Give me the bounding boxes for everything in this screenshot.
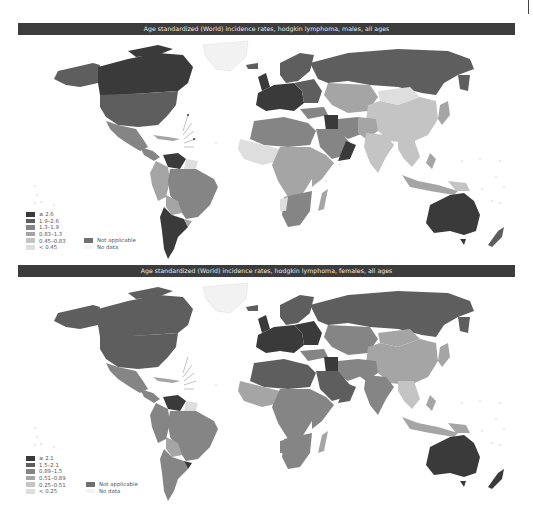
legend-swatch <box>26 245 35 250</box>
region-australia <box>426 193 480 235</box>
legend-item: ≥ 2.1 <box>26 455 66 462</box>
world-map-males <box>18 35 515 263</box>
region-indonesia <box>402 417 458 437</box>
region-central-america <box>140 389 160 403</box>
legend-item: 1.9–2.6 <box>26 218 66 225</box>
legend-item: ≥ 2.6 <box>26 211 66 218</box>
region-iraq <box>324 357 338 373</box>
region-canada <box>98 295 193 337</box>
region-central-africa <box>272 389 316 439</box>
region-japan <box>438 343 450 367</box>
region-southeast-asia <box>398 381 420 409</box>
legend-item: 1.3–1.9 <box>26 224 66 231</box>
region-central-america <box>140 147 160 161</box>
world-map-females <box>18 277 515 505</box>
legend-item: 0.25–0.51 <box>26 481 66 488</box>
legend-item: 0.89–1.5 <box>26 468 66 475</box>
region-southern-africa <box>282 433 312 469</box>
legend-item-not-applicable: Not applicable <box>86 481 138 488</box>
legend-extra-females: Not applicable No data <box>86 481 138 494</box>
region-greenland <box>203 41 248 71</box>
legend-item-not-applicable: Not applicable <box>84 237 136 244</box>
page-edge-mark <box>528 0 529 14</box>
legend-item: < 0.45 <box>26 244 66 251</box>
region-alaska <box>54 305 100 329</box>
legend-swatch <box>26 489 35 494</box>
legend-item-no-data: No data <box>84 244 136 251</box>
legend-swatch <box>86 482 95 487</box>
legend-swatch <box>26 238 35 243</box>
region-canada <box>98 53 193 95</box>
legend-item: 0.45–0.83 <box>26 237 66 244</box>
legend-males: ≥ 2.6 1.9–2.6 1.3–1.9 0.83–1.3 0.45–0.83… <box>26 211 66 251</box>
region-colombia-peru <box>150 403 170 443</box>
region-scandinavia <box>280 53 314 83</box>
region-indonesia <box>402 175 458 195</box>
region-madagascar <box>318 431 328 453</box>
legend-swatch <box>26 225 35 230</box>
region-japan <box>438 101 450 125</box>
region-greenland <box>203 283 248 313</box>
region-iraq <box>324 115 338 131</box>
legend-swatch <box>26 463 35 468</box>
region-usa <box>100 333 178 369</box>
region-usa <box>100 91 178 127</box>
legend-swatch <box>26 232 35 237</box>
legend-swatch <box>26 469 35 474</box>
legend-swatch <box>84 245 93 250</box>
region-colombia-peru <box>150 161 170 201</box>
legend-swatch <box>26 482 35 487</box>
legend-swatch <box>26 456 35 461</box>
region-australia <box>426 435 480 477</box>
legend-item: 1.5–2.1 <box>26 462 66 469</box>
legend-females: ≥ 2.1 1.5–2.1 0.89–1.5 0.51–0.89 0.25–0.… <box>26 455 66 495</box>
legend-swatch <box>26 476 35 481</box>
legend-item: 0.83–1.3 <box>26 231 66 238</box>
map-panel-females: Age standardized (World) incidence rates… <box>18 265 515 509</box>
region-new-zealand <box>488 469 504 489</box>
region-scandinavia <box>280 295 314 325</box>
region-southeast-asia <box>398 139 420 167</box>
map-title-males: Age standardized (World) incidence rates… <box>18 23 515 35</box>
region-alaska <box>54 63 100 87</box>
region-southern-africa <box>282 191 312 227</box>
legend-swatch <box>26 219 35 224</box>
legend-item: < 0.25 <box>26 488 66 495</box>
legend-swatch <box>84 238 93 243</box>
legend-item-no-data: No data <box>86 488 138 495</box>
map-title-females: Age standardized (World) incidence rates… <box>18 265 515 277</box>
map-panel-males: Age standardized (World) incidence rates… <box>18 23 515 263</box>
legend-extra-males: Not applicable No data <box>84 237 136 250</box>
legend-swatch <box>26 212 35 217</box>
region-new-zealand <box>488 227 504 247</box>
region-central-africa <box>272 147 316 197</box>
region-north-africa <box>250 359 316 389</box>
legend-item: 0.51–0.89 <box>26 475 66 482</box>
region-madagascar <box>318 189 328 211</box>
legend-swatch <box>86 489 95 494</box>
region-north-africa <box>250 117 316 147</box>
